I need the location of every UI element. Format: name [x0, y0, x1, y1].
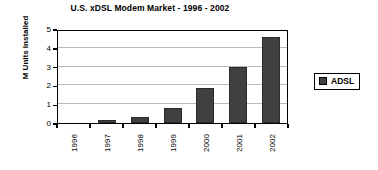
legend-label-adsl: ADSL: [331, 77, 354, 86]
x-tick-label-2001: 2001: [234, 134, 243, 152]
x-tick-label-1999: 1999: [168, 134, 177, 152]
bar-2001: [229, 67, 247, 123]
y-tick-label: 1: [47, 101, 53, 109]
x-label-slot: 1997: [90, 129, 123, 167]
y-tick-label: 2: [47, 82, 53, 90]
bar-series-adsl: [58, 31, 287, 123]
bar-slot: [123, 31, 156, 123]
bar-slot: [254, 31, 287, 123]
chart-title: U.S. xDSL Modem Market - 1996 - 2002: [0, 3, 300, 13]
x-tick-mark: [122, 124, 123, 128]
bar-1998: [131, 117, 149, 123]
x-tick-mark: [155, 124, 156, 128]
x-label-slot: 2002: [255, 129, 288, 167]
plot-area: [57, 30, 288, 124]
x-tick-mark: [89, 124, 90, 128]
x-tick-mark: [56, 124, 57, 128]
y-tick-label: 3: [47, 63, 53, 71]
x-tick-label-2000: 2000: [201, 134, 210, 152]
bar-slot: [189, 31, 222, 123]
x-label-slot: 1999: [156, 129, 189, 167]
x-tick-mark: [287, 124, 288, 128]
legend: ADSL: [314, 73, 360, 90]
x-label-slot: 1998: [123, 129, 156, 167]
x-label-slot: 1996: [57, 129, 90, 167]
x-axis-labels: 1996199719981999200020012002: [57, 129, 288, 167]
y-axis-ticks: 012345: [0, 30, 57, 124]
bar-2000: [196, 88, 214, 123]
chart-figure: U.S. xDSL Modem Market - 1996 - 2002 M U…: [0, 0, 378, 170]
x-tick-label-2002: 2002: [267, 134, 276, 152]
x-tick-label-1996: 1996: [69, 134, 78, 152]
x-tick-label-1998: 1998: [135, 134, 144, 152]
x-label-slot: 2001: [222, 129, 255, 167]
y-tick-label: 0: [47, 120, 53, 128]
x-tick-mark: [188, 124, 189, 128]
bar-2002: [262, 37, 280, 123]
bar-slot: [156, 31, 189, 123]
bar-1997: [98, 120, 116, 123]
x-label-slot: 2000: [189, 129, 222, 167]
bar-slot: [58, 31, 91, 123]
legend-swatch-adsl: [319, 77, 327, 85]
y-tick-label: 5: [47, 26, 53, 34]
bar-1999: [164, 108, 182, 123]
x-tick-mark: [254, 124, 255, 128]
bar-slot: [222, 31, 255, 123]
x-tick-label-1997: 1997: [102, 134, 111, 152]
bar-slot: [91, 31, 124, 123]
y-tick-label: 4: [47, 44, 53, 52]
x-tick-mark: [221, 124, 222, 128]
